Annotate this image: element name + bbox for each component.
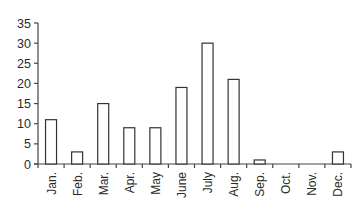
- y-tick-label: 10: [17, 117, 31, 131]
- y-tick-label: 30: [17, 37, 31, 51]
- bar-apr: [124, 128, 135, 164]
- bar-chart: 05101520253035 Jan.Feb.Mar.Apr.MayJuneJu…: [0, 0, 363, 220]
- bars: [46, 43, 344, 164]
- x-tick-label: Nov.: [305, 172, 319, 196]
- bar-jan: [46, 120, 57, 164]
- x-tick-label: June: [175, 172, 189, 198]
- y-axis: 05101520253035: [17, 17, 38, 172]
- x-tick-label: May: [149, 172, 163, 195]
- y-tick-label: 0: [24, 158, 31, 172]
- x-tick-label: Feb.: [71, 172, 85, 196]
- x-tick-label: Oct.: [279, 172, 293, 194]
- y-tick-label: 35: [17, 17, 31, 31]
- x-tick-label: Mar.: [97, 172, 111, 195]
- x-tick-label: Aug.: [227, 172, 241, 197]
- bar-june: [176, 87, 187, 164]
- x-axis-labels: Jan.Feb.Mar.Apr.MayJuneJulyAug.Sep.Oct.N…: [45, 172, 346, 198]
- bar-feb: [72, 152, 83, 164]
- x-tick-label: July: [201, 172, 215, 193]
- y-tick-label: 25: [17, 57, 31, 71]
- y-tick-label: 5: [24, 137, 31, 151]
- x-tick-label: Apr.: [123, 172, 137, 193]
- x-tick-label: Jan.: [45, 172, 59, 195]
- bar-may: [150, 128, 161, 164]
- bar-dec: [332, 152, 343, 164]
- x-tick-label: Dec.: [331, 172, 345, 197]
- bar-july: [202, 43, 213, 164]
- bar-mar: [98, 104, 109, 164]
- y-tick-label: 15: [17, 97, 31, 111]
- x-tick-label: Sep.: [253, 172, 267, 197]
- y-tick-label: 20: [17, 77, 31, 91]
- bar-sep: [254, 160, 265, 164]
- bar-aug: [228, 79, 239, 164]
